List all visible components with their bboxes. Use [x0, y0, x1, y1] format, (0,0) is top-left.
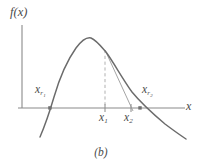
- root-marker-left: [48, 106, 51, 109]
- label-iterate-1: x1: [99, 112, 108, 124]
- plot-canvas: [0, 0, 202, 165]
- x-axis-label: x: [186, 100, 191, 112]
- root-marker-right: [138, 106, 141, 109]
- label-iterate-2-sub: 2: [129, 117, 133, 125]
- y-axis-label: f(x): [10, 6, 27, 19]
- figure-caption: (b): [0, 146, 202, 158]
- function-curve: [40, 38, 186, 139]
- label-iterate-1-sub: 1: [104, 117, 108, 125]
- label-root-left-subsub: 1: [43, 93, 46, 98]
- label-root-right: xr2: [142, 84, 152, 96]
- label-root-left: xr1: [35, 84, 45, 96]
- label-iterate-2: x2: [124, 112, 133, 124]
- secant-line: [105, 50, 133, 111]
- label-root-right-subsub: 2: [150, 93, 153, 98]
- figure-panel: f(x) x xr1 xr2 x1 x2 (b): [0, 0, 202, 165]
